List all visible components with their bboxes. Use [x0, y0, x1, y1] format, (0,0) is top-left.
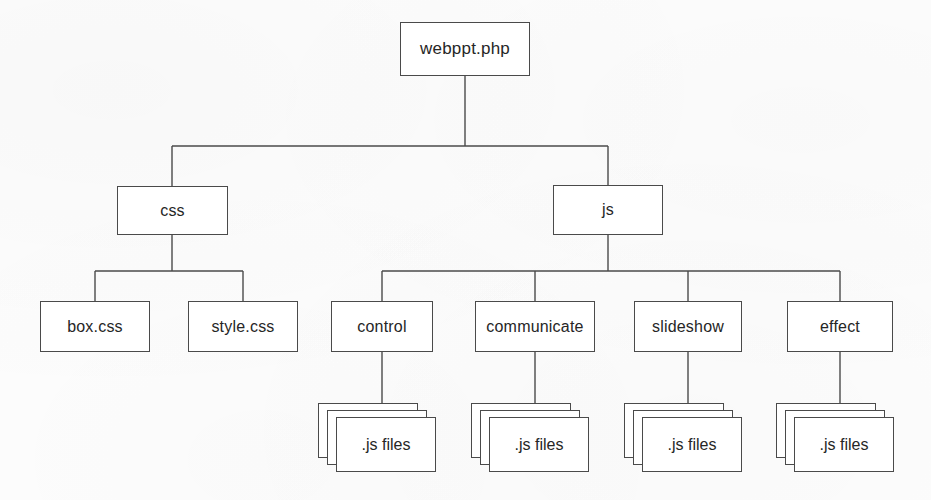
file-stack-label: .js files	[362, 436, 411, 454]
node-label: box.css	[67, 318, 123, 336]
file-stack-label: .js files	[820, 436, 869, 454]
diagram-canvas: webppt.php css js box.css style.css cont…	[0, 0, 931, 500]
node-label: control	[357, 318, 406, 336]
node-label: effect	[820, 318, 860, 336]
node-label: webppt.php	[420, 39, 510, 59]
file-stack-control[interactable]: .js files	[318, 403, 440, 475]
node-control[interactable]: control	[331, 301, 433, 352]
stack-sheet-front[interactable]: .js files	[336, 417, 436, 472]
stack-sheet-front[interactable]: .js files	[794, 417, 894, 472]
node-webppt-php[interactable]: webppt.php	[400, 22, 530, 76]
node-label: js	[602, 201, 614, 219]
stack-sheet-front[interactable]: .js files	[489, 417, 589, 472]
node-label: slideshow	[652, 318, 724, 336]
file-stack-label: .js files	[668, 436, 717, 454]
node-communicate[interactable]: communicate	[475, 301, 595, 352]
file-stack-communicate[interactable]: .js files	[471, 403, 593, 475]
node-label: css	[160, 202, 185, 220]
file-stack-effect[interactable]: .js files	[776, 403, 898, 475]
node-effect[interactable]: effect	[787, 301, 893, 352]
node-label: style.css	[211, 318, 274, 336]
node-css[interactable]: css	[117, 186, 228, 235]
file-stack-slideshow[interactable]: .js files	[624, 403, 746, 475]
node-js[interactable]: js	[553, 185, 663, 235]
file-stack-label: .js files	[515, 436, 564, 454]
node-slideshow[interactable]: slideshow	[634, 301, 742, 352]
node-box-css[interactable]: box.css	[40, 301, 150, 352]
node-style-css[interactable]: style.css	[188, 301, 298, 352]
node-label: communicate	[486, 318, 583, 336]
stack-sheet-front[interactable]: .js files	[642, 417, 742, 472]
